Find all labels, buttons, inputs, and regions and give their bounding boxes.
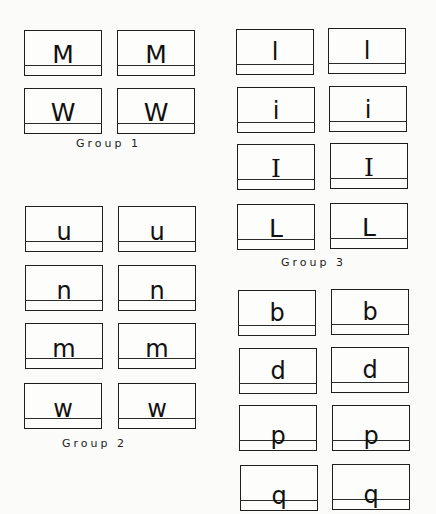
letter-glyph: M xyxy=(118,44,194,66)
group-label: Group 3 xyxy=(281,256,346,269)
letter-card: u xyxy=(118,206,196,252)
letter-card: w xyxy=(24,383,102,429)
letter-card: p xyxy=(332,405,410,451)
letter-glyph: w xyxy=(25,400,101,418)
letter-glyph: q xyxy=(241,481,317,511)
letter-card: u xyxy=(25,206,103,252)
letter-card: w xyxy=(118,383,196,429)
letter-card: m xyxy=(25,323,103,369)
letter-card: W xyxy=(24,88,102,134)
letter-glyph: L xyxy=(238,218,314,240)
letter-card: L xyxy=(330,203,408,249)
group-label: Group 1 xyxy=(76,137,141,150)
letter-glyph: u xyxy=(119,223,195,241)
letter-card: n xyxy=(25,265,103,311)
letter-card: d xyxy=(239,348,317,394)
letter-glyph: b xyxy=(332,300,408,324)
letter-glyph: b xyxy=(239,301,315,325)
letter-glyph: q xyxy=(333,480,409,510)
letter-glyph: n xyxy=(26,282,102,300)
letter-glyph: I xyxy=(331,157,407,179)
letter-glyph: m xyxy=(26,340,102,358)
letter-glyph: u xyxy=(26,223,102,241)
letter-card: b xyxy=(331,289,409,335)
letter-card: b xyxy=(238,290,316,336)
letter-card: W xyxy=(117,88,195,134)
letter-card: i xyxy=(329,86,407,132)
letter-card: M xyxy=(117,30,195,76)
letter-card: q xyxy=(332,464,410,510)
letter-card: M xyxy=(24,30,102,76)
letter-card: L xyxy=(237,204,315,250)
letter-glyph: W xyxy=(25,102,101,124)
letter-card: i xyxy=(237,87,315,133)
group-label: Group 2 xyxy=(62,437,127,450)
letter-glyph: l xyxy=(329,39,405,63)
letter-glyph: W xyxy=(118,102,194,124)
letter-card: I xyxy=(237,144,315,190)
letter-glyph: l xyxy=(237,40,313,64)
letter-glyph: p xyxy=(333,421,409,451)
letter-glyph: n xyxy=(119,282,195,300)
letter-glyph: i xyxy=(238,100,314,122)
letter-glyph: d xyxy=(332,358,408,382)
letter-glyph: p xyxy=(240,421,316,451)
letter-glyph: m xyxy=(119,340,195,358)
letter-glyph: I xyxy=(238,158,314,180)
letter-card: m xyxy=(118,323,196,369)
letter-glyph: M xyxy=(25,44,101,66)
letter-card: I xyxy=(330,143,408,189)
letter-card: n xyxy=(118,265,196,311)
letter-card: q xyxy=(240,465,318,511)
letter-glyph: i xyxy=(330,99,406,121)
letter-card: d xyxy=(331,347,409,393)
letter-card: p xyxy=(239,405,317,451)
letter-card: l xyxy=(328,28,406,74)
letter-card: l xyxy=(236,29,314,75)
letter-glyph: d xyxy=(240,359,316,383)
letter-glyph: L xyxy=(331,217,407,239)
letter-glyph: w xyxy=(119,400,195,418)
